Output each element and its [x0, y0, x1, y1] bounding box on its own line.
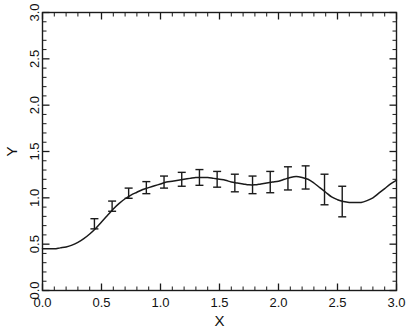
- y-tick-label: 0.5: [27, 235, 42, 253]
- x-axis-title: X: [214, 312, 224, 329]
- x-tick-label: 0.5: [92, 295, 110, 310]
- y-axis-title: Y: [3, 146, 20, 156]
- y-tick-label: 0.0: [27, 281, 42, 299]
- y-tick-label: 2.0: [27, 96, 42, 114]
- figure-background: [0, 0, 411, 331]
- x-tick-label: 1.0: [151, 295, 169, 310]
- x-tick-label: 1.5: [210, 295, 228, 310]
- xy-plot-with-error-bars: 0.00.51.01.52.02.53.0 0.00.51.01.52.02.5…: [0, 0, 411, 331]
- y-tick-label: 2.5: [27, 50, 42, 68]
- x-tick-label: 2.0: [269, 295, 287, 310]
- y-tick-label: 1.0: [27, 189, 42, 207]
- x-tick-label: 3.0: [387, 295, 405, 310]
- x-tick-label: 2.5: [328, 295, 346, 310]
- y-tick-label: 3.0: [27, 3, 42, 21]
- chart-figure: 0.00.51.01.52.02.53.0 0.00.51.01.52.02.5…: [0, 0, 411, 331]
- y-tick-label: 1.5: [27, 142, 42, 160]
